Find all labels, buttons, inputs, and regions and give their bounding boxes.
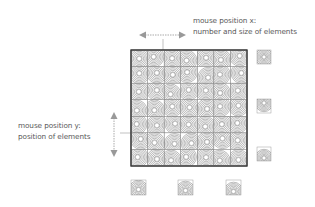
grid-cell <box>163 65 184 86</box>
right-examples <box>255 48 272 166</box>
grid-cell <box>178 80 199 101</box>
grid-cell <box>212 114 233 135</box>
grid-cell <box>196 147 217 168</box>
grid-cell <box>162 48 183 69</box>
vertical-double-arrow-icon <box>111 112 132 157</box>
grid-cell <box>195 116 216 137</box>
grid-cell <box>196 80 217 101</box>
bottom-example-medium <box>176 180 195 200</box>
grid-cell <box>210 64 231 85</box>
grid-cell <box>197 67 218 88</box>
right-example-center <box>255 48 272 65</box>
horizontal-double-arrow-icon <box>139 32 186 51</box>
grid-cell <box>127 147 148 168</box>
grid-cell <box>178 114 199 135</box>
element-grid <box>126 46 251 171</box>
grid-cell <box>212 128 233 149</box>
right-example-lower <box>255 147 272 167</box>
bottom-example-few-large <box>129 180 148 199</box>
grid-cell <box>129 81 150 102</box>
right-example-upper <box>255 94 272 113</box>
grid-cell <box>129 48 150 69</box>
grid-cell <box>228 80 249 101</box>
bottom-example-many-small <box>224 180 243 201</box>
diagram-canvas <box>0 0 315 207</box>
grid-cell <box>179 97 200 118</box>
grid-cell <box>196 47 217 68</box>
grid-cell <box>228 149 249 170</box>
grid-cell <box>161 149 182 170</box>
bottom-examples <box>129 180 243 201</box>
grid-cell <box>227 130 248 151</box>
grid-cell <box>126 114 147 135</box>
